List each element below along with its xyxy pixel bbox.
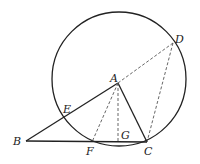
circle <box>52 12 186 146</box>
label-B: B <box>12 135 21 148</box>
label-C: C <box>144 145 153 158</box>
segment-BA <box>26 83 118 141</box>
label-D: D <box>174 33 184 46</box>
label-F: F <box>85 145 94 158</box>
geometry-diagram: A B C D E F G <box>0 0 200 164</box>
label-E: E <box>62 103 71 116</box>
label-G: G <box>121 129 130 142</box>
segment-AD <box>118 43 173 83</box>
segment-DC <box>147 43 173 142</box>
label-A: A <box>109 72 118 85</box>
